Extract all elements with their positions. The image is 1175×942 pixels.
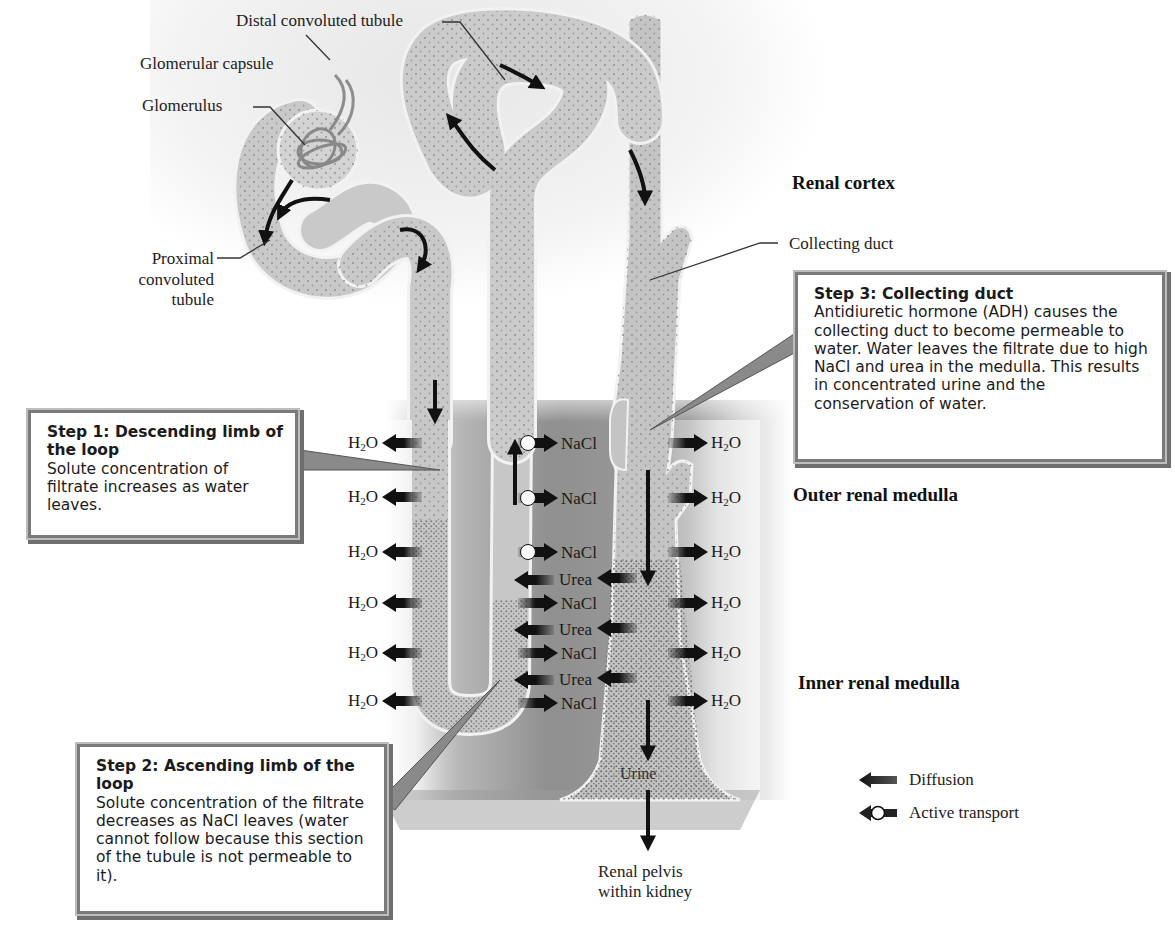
ascending-urea-flux: Urea <box>512 567 641 592</box>
descending-h2o-flux: H2O <box>348 690 426 712</box>
nacl-label: NaCl <box>561 544 597 561</box>
diffusion-arrow-icon <box>595 567 641 589</box>
diffusion-arrow-icon <box>380 642 426 664</box>
h2o-label: H2O <box>348 488 378 507</box>
ascending-nacl-flux: NaCl <box>514 642 597 664</box>
legend-diffusion: Diffusion <box>857 770 974 790</box>
outer-medulla-label: Outer renal medulla <box>793 484 958 506</box>
ascending-nacl-flux: NaCl <box>514 432 597 454</box>
h2o-label: H2O <box>711 644 741 663</box>
collecting-h2o-flux: H2O <box>664 541 741 563</box>
diffusion-arrow-icon <box>380 541 426 563</box>
nacl-label: NaCl <box>561 490 597 507</box>
nacl-label: NaCl <box>561 645 597 662</box>
diffusion-arrow-icon <box>664 541 710 563</box>
step2-title: Step 2: Ascending limb of the loop <box>96 757 372 794</box>
ascending-nacl-flux: NaCl <box>514 592 597 614</box>
diffusion-arrow-icon <box>380 432 426 454</box>
descending-h2o-flux: H2O <box>348 592 426 614</box>
collecting-h2o-flux: H2O <box>664 642 741 664</box>
diffusion-arrow-icon <box>512 569 558 591</box>
nacl-label: NaCl <box>561 695 597 712</box>
h2o-label: H2O <box>348 543 378 562</box>
diffusion-arrow-icon <box>664 642 710 664</box>
h2o-label: H2O <box>711 692 741 711</box>
active-transport-arrow-icon <box>514 487 560 509</box>
descending-h2o-flux: H2O <box>348 486 426 508</box>
ascending-urea-flux: Urea <box>512 617 641 642</box>
diffusion-arrow-icon <box>514 592 560 614</box>
ascending-nacl-flux: NaCl <box>514 541 597 563</box>
diffusion-arrow-icon <box>380 486 426 508</box>
diffusion-arrow-icon <box>664 592 710 614</box>
nephron-diagram: Distal convoluted tubule Glomerular caps… <box>0 0 1175 942</box>
step1-body: Solute concentration of filtrate increas… <box>47 460 283 515</box>
diffusion-arrow-icon <box>514 642 560 664</box>
step3-box: Step 3: Collecting duct Antidiuretic hor… <box>795 272 1165 462</box>
h2o-label: H2O <box>711 543 741 562</box>
proximal-tubule-label: Proximal convoluted tubule <box>130 250 214 310</box>
ascending-nacl-flux: NaCl <box>514 487 597 509</box>
h2o-label: H2O <box>348 692 378 711</box>
diffusion-arrow-icon <box>380 592 426 614</box>
ascending-nacl-flux: NaCl <box>514 692 597 714</box>
collecting-duct-label: Collecting duct <box>789 235 893 254</box>
nacl-label: NaCl <box>561 435 597 452</box>
collecting-h2o-flux: H2O <box>664 592 741 614</box>
collecting-h2o-flux: H2O <box>664 690 741 712</box>
inner-medulla-label: Inner renal medulla <box>798 672 960 694</box>
diffusion-arrow-icon <box>380 690 426 712</box>
legend-active-transport: Active transport <box>857 803 1019 823</box>
diffusion-arrow-icon <box>664 487 710 509</box>
descending-h2o-flux: H2O <box>348 541 426 563</box>
urea-label: Urea <box>559 621 592 638</box>
diffusion-arrow-icon <box>664 432 710 454</box>
glomerulus-label: Glomerulus <box>142 97 222 116</box>
diffusion-arrow-icon <box>512 619 558 641</box>
h2o-label: H2O <box>711 594 741 613</box>
active-transport-arrow-icon <box>514 432 560 454</box>
diffusion-arrow-icon <box>664 690 710 712</box>
urea-label: Urea <box>559 571 592 588</box>
h2o-label: H2O <box>711 489 741 508</box>
nacl-label: NaCl <box>561 595 597 612</box>
distal-tubule-label: Distal convoluted tubule <box>236 12 403 31</box>
active-transport-arrow-icon <box>857 803 901 823</box>
renal-cortex-label: Renal cortex <box>792 172 895 194</box>
step1-box: Step 1: Descending limb of the loop Solu… <box>28 410 298 538</box>
diffusion-arrow-icon <box>514 692 560 714</box>
urine-label: Urine <box>620 765 656 783</box>
h2o-label: H2O <box>348 434 378 453</box>
glomerular-capsule-label: Glomerular capsule <box>140 55 274 74</box>
descending-h2o-flux: H2O <box>348 432 426 454</box>
urea-label: Urea <box>559 671 592 688</box>
collecting-h2o-flux: H2O <box>664 432 741 454</box>
h2o-label: H2O <box>348 594 378 613</box>
step2-box: Step 2: Ascending limb of the loop Solut… <box>77 744 387 914</box>
diffusion-arrow-icon <box>512 669 558 691</box>
step3-title: Step 3: Collecting duct <box>814 285 1150 303</box>
active-transport-arrow-icon <box>514 541 560 563</box>
h2o-label: H2O <box>711 434 741 453</box>
step3-body: Antidiuretic hormone (ADH) causes the co… <box>814 303 1150 413</box>
step1-title: Step 1: Descending limb of the loop <box>47 423 283 460</box>
diffusion-arrow-icon <box>595 667 641 689</box>
ascending-urea-flux: Urea <box>512 667 641 692</box>
collecting-h2o-flux: H2O <box>664 487 741 509</box>
diffusion-arrow-icon <box>595 617 641 639</box>
descending-h2o-flux: H2O <box>348 642 426 664</box>
step2-body: Solute concentration of the filtrate dec… <box>96 794 372 885</box>
h2o-label: H2O <box>348 644 378 663</box>
diffusion-arrow-icon <box>857 770 901 790</box>
renal-pelvis-label: Renal pelvis within kidney <box>598 862 692 903</box>
